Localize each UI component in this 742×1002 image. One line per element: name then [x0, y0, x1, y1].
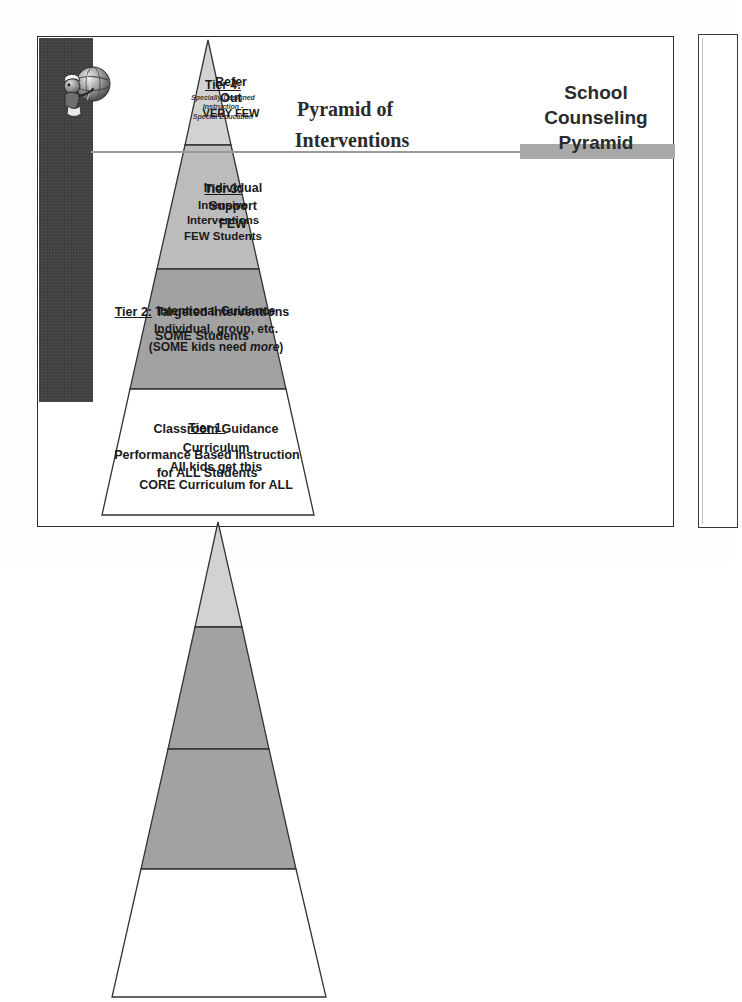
adjacent-slide-inner-edge [702, 38, 742, 524]
slide-panel: Tier 4: Specially Designed Instruction -… [37, 36, 674, 527]
right-tier-1-label: Classroom Guidance Curriculum All kids g… [66, 420, 366, 495]
school-counseling-pyramid [38, 519, 368, 1001]
right-tier-4-shape [195, 522, 242, 627]
school-counseling-pyramid-title: School Counseling Pyramid [516, 80, 676, 155]
right-tier-2-label: Intentional Guidance Individual, group, … [71, 302, 361, 356]
right-tier-2-shape [141, 749, 296, 869]
right-tier-3-shape [168, 627, 269, 749]
right-tier-1-shape [112, 869, 326, 997]
emphasis-more: more [250, 340, 279, 354]
student-clipart-icon [55, 62, 117, 124]
right-tier-3-label: Individual Support FEW [158, 179, 308, 233]
adjacent-slide-panel [698, 34, 738, 528]
right-tier-4-label: Refer Out VERY FEW [171, 75, 291, 122]
